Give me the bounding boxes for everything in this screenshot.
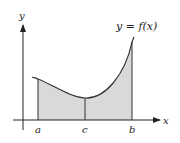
area-under-curve-diagram: y = f(x) y x a c b xyxy=(0,0,180,143)
y-axis-label: y xyxy=(18,10,25,21)
x-axis-label: x xyxy=(163,115,169,126)
point-a-label: a xyxy=(35,124,41,135)
point-b-label: b xyxy=(129,124,135,135)
point-c-label: c xyxy=(82,124,88,135)
function-label: y = f(x) xyxy=(115,20,157,33)
